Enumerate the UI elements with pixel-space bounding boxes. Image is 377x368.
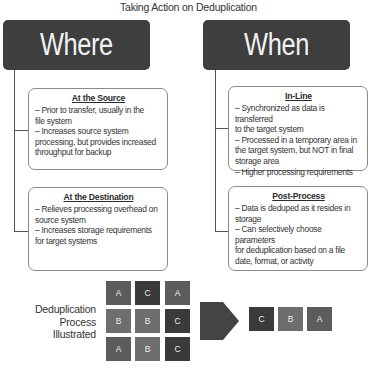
card-line: – Processed in a temporary area in [235,135,362,146]
arrow-right-icon [200,302,240,340]
card-title: Post-Process [235,191,362,201]
data-block-a: A [165,281,190,305]
card-title: In-Line [235,91,362,101]
when-header-label: When [244,27,309,63]
card-line: the target system, but NOT in final [235,145,362,156]
card-line: – Increases storage requirements [35,225,162,236]
card-line: – Prior to transfer, usually in the [35,105,162,116]
where-connector-source [14,130,28,131]
illustration-label: Deduplication Process Illustrated [20,303,96,341]
card-line: – Synchronized as data is transferred [235,103,362,124]
where-header: Where [3,20,150,70]
card-line: – Relieves processing overhead on [35,204,162,215]
card-line: – Can selectively choose parameters [235,224,362,245]
data-block-a: A [307,307,332,331]
card-at-the-source: At the Source – Prior to transfer, usual… [28,88,168,170]
deduplicated-result: C B A [249,307,335,333]
data-block-b: B [135,309,160,333]
card-title: At the Destination [35,192,162,202]
card-line: for target systems [35,236,162,247]
data-block-c: C [249,307,274,331]
when-connector-inline [215,128,228,129]
card-line: storage [235,214,362,225]
data-block-b: B [106,309,131,333]
data-block-c: C [135,281,160,305]
card-line: to the target system [235,124,362,135]
card-line: – Data is deduped as it resides in [235,203,362,214]
card-line: – Increases source system [35,126,162,137]
illustration-label-line: Deduplication [20,303,96,316]
data-block-c: C [165,337,190,361]
when-header: When [203,20,350,70]
data-block-b: B [135,337,160,361]
card-line: storage area [235,156,362,167]
illustration-label-line: Illustrated [20,328,96,341]
data-block-b: B [278,307,303,331]
card-line: for deduplication based on a file [235,245,362,256]
where-connector-vertical [14,70,15,232]
card-post-process: Post-Process – Data is deduped as it res… [228,186,368,271]
card-line: processing, but provides increased [35,137,162,148]
card-line: date, format, or activity [235,256,362,267]
illustration-label-line: Process [20,316,96,329]
card-line: source system [35,215,162,226]
card-line: – Higher processing requirements [235,167,362,178]
data-block-c: C [165,309,190,333]
data-block-a: A [106,337,131,361]
when-connector-vertical [215,70,216,232]
data-block-a: A [106,281,131,305]
card-in-line: In-Line – Synchronized as data is transf… [228,86,368,171]
data-block-grid: A C A B B C A B C [106,281,193,362]
card-at-the-destination: At the Destination – Relieves processing… [28,187,168,271]
card-line: throughput for backup [35,147,162,158]
diagram-title: Taking Action on Deduplication [0,1,377,13]
card-line: file system [35,116,162,127]
when-connector-postprocess [215,231,228,232]
where-connector-destination [14,231,28,232]
where-header-label: Where [40,27,113,63]
card-title: At the Source [35,93,162,103]
